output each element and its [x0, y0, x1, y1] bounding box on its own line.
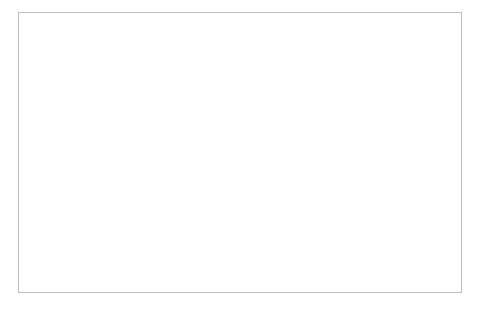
chart-frame-border	[18, 12, 462, 293]
chart-figure: 00.511.522.533.5 01020304050 Best CaseRe…	[0, 0, 481, 310]
